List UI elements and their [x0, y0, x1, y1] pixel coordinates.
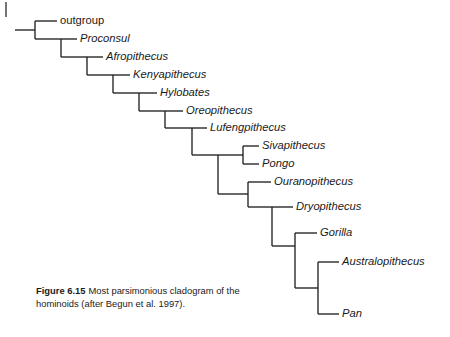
tip-labels: outgroup Proconsul Afropithecus Kenyapit…: [60, 14, 425, 319]
tip-label-pongo: Pongo: [262, 157, 294, 169]
figure-caption: Figure 6.15Most parsimonious cladogram o…: [36, 284, 266, 311]
tip-label-lufengpithecus: Lufengpithecus: [210, 121, 286, 133]
tip-label-proconsul: Proconsul: [80, 32, 130, 44]
tip-label-oreopithecus: Oreopithecus: [186, 104, 253, 116]
tip-label-outgroup: outgroup: [60, 14, 104, 26]
figure-number: Figure 6.15: [36, 285, 86, 296]
tip-label-kenyapithecus: Kenyapithecus: [133, 68, 207, 80]
tip-label-australopithecus: Australopithecus: [341, 255, 425, 267]
tip-label-pan: Pan: [342, 307, 362, 319]
tip-label-ouranopithecus: Ouranopithecus: [274, 175, 353, 187]
tip-label-gorilla: Gorilla: [320, 226, 352, 238]
tip-label-afropithecus: Afropithecus: [105, 50, 169, 62]
figure-container: outgroup Proconsul Afropithecus Kenyapit…: [0, 0, 450, 337]
tip-label-sivapithecus: Sivapithecus: [262, 139, 326, 151]
tip-label-dryopithecus: Dryopithecus: [296, 200, 362, 212]
tip-label-hylobates: Hylobates: [160, 86, 210, 98]
